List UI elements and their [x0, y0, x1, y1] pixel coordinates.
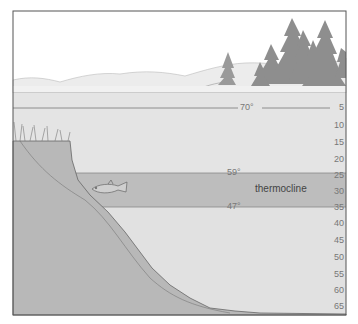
depth-25: 25 [324, 170, 344, 180]
depth-10: 10 [324, 120, 344, 130]
depth-65: 65 [324, 301, 344, 311]
depth-35: 35 [324, 202, 344, 212]
depth-55: 55 [324, 269, 344, 279]
temp-label-47: 47° [227, 201, 241, 211]
depth-60: 60 [324, 285, 344, 295]
depth-30: 30 [324, 186, 344, 196]
depth-20: 20 [324, 154, 344, 164]
depth-5: 5 [324, 102, 344, 112]
depth-50: 50 [324, 252, 344, 262]
temp-label-70: 70° [240, 102, 254, 112]
depth-15: 15 [324, 137, 344, 147]
temp-label-59: 59° [227, 167, 241, 177]
thermocline-label: thermocline [255, 183, 307, 194]
lake-diagram: 70° 59° 47° thermocline 5 10 15 20 25 30… [0, 0, 358, 324]
depth-40: 40 [324, 218, 344, 228]
depth-45: 45 [324, 235, 344, 245]
